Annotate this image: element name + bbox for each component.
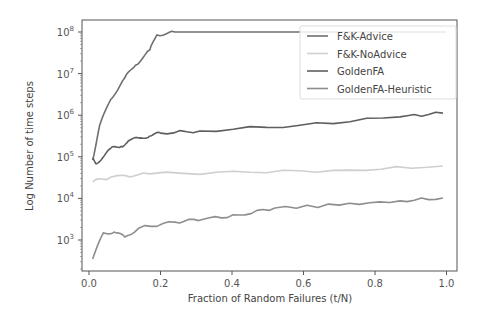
y-axis: 103104105106107108: [57, 25, 82, 269]
y-tick-label: 106: [57, 108, 75, 121]
legend-label: F&K-NoAdvice: [337, 49, 407, 60]
x-tick-label: 0.8: [367, 278, 383, 289]
legend-label: GoldenFA-Heuristic: [337, 84, 432, 95]
x-tick-label: 0.0: [81, 278, 97, 289]
y-tick-label: 104: [57, 191, 75, 204]
x-tick-label: 1.0: [439, 278, 455, 289]
legend-label: F&K-Advice: [337, 31, 393, 42]
y-axis-label: Log Number of time steps: [24, 81, 35, 211]
y-tick-label: 107: [57, 67, 74, 80]
x-axis: 0.00.20.40.60.81.0: [81, 271, 454, 289]
y-tick-label: 105: [57, 150, 74, 163]
x-tick-label: 0.4: [224, 278, 240, 289]
legend: F&K-AdviceF&K-NoAdviceGoldenFAGoldenFA-H…: [300, 26, 456, 99]
x-tick-label: 0.2: [153, 278, 169, 289]
x-axis-label: Fraction of Random Failures (t/N): [188, 293, 352, 304]
line-chart: 103104105106107108 0.00.20.40.60.81.0 Fr…: [0, 0, 485, 322]
x-tick-label: 0.6: [296, 278, 312, 289]
y-tick-label: 103: [57, 233, 74, 246]
legend-label: GoldenFA: [337, 66, 384, 77]
y-tick-label: 108: [57, 25, 74, 38]
